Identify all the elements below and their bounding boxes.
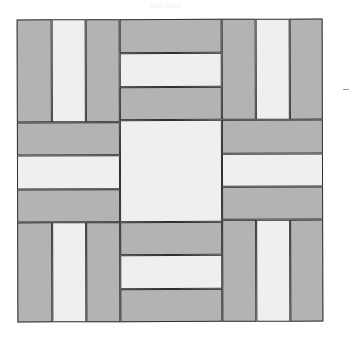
- quilt-piece-tr-rail-2: [256, 19, 290, 120]
- quilt-piece-tl-rail-3: [86, 19, 120, 122]
- quilt-piece-tm-rail-1: [120, 19, 222, 53]
- quilt-piece-ml-rail-1: [17, 122, 120, 155]
- quilt-piece-ml-rail-2: [17, 155, 120, 189]
- quilt-piece-tl-rail-1: [17, 19, 52, 122]
- quilt-piece-center-square: [120, 120, 222, 222]
- quilt-piece-br-rail-1: [222, 220, 256, 322]
- quilt-piece-ml-rail-3: [17, 189, 120, 222]
- margin-dash-mark: [343, 89, 349, 90]
- quilt-piece-tr-rail-3: [290, 19, 323, 120]
- quilt-piece-br-rail-3: [290, 220, 323, 322]
- quilt-piece-mr-rail-3: [222, 187, 323, 220]
- quilt-piece-bm-rail-1: [120, 222, 222, 255]
- faint-caption: quilt block: [150, 2, 181, 9]
- quilt-piece-bm-rail-3: [120, 289, 222, 322]
- quilt-piece-br-rail-2: [256, 220, 290, 322]
- quilt-piece-mr-rail-2: [222, 154, 323, 187]
- quilt-piece-bl-rail-1: [17, 222, 52, 322]
- quilt-piece-tl-rail-2: [52, 19, 86, 122]
- quilt-piece-tm-rail-3: [120, 87, 222, 120]
- quilt-piece-bl-rail-3: [86, 222, 120, 322]
- quilt-piece-bm-rail-2: [120, 255, 222, 289]
- quilt-piece-tm-rail-2: [120, 53, 222, 87]
- quilt-piece-bl-rail-2: [52, 222, 86, 322]
- quilt-piece-tr-rail-1: [222, 19, 256, 120]
- quilt-piece-mr-rail-1: [222, 120, 323, 154]
- quilt-block-diagram: [17, 19, 324, 323]
